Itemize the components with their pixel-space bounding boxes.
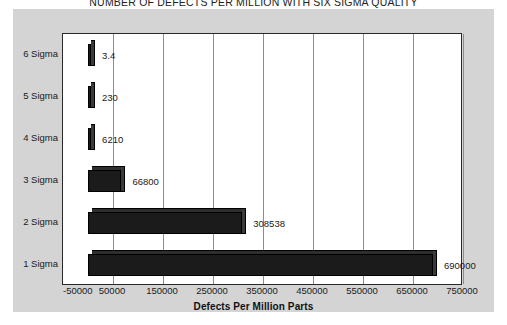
y-axis-label: 5 Sigma [11, 91, 58, 101]
x-axis-tick-label: 750000 [446, 286, 478, 296]
y-axis-label: 2 Sigma [11, 217, 58, 227]
plot-area: 3.4230621066800308538690000 [62, 33, 462, 285]
bar-value-label: 66800 [132, 177, 158, 187]
bar [88, 44, 91, 66]
bar-front-face [88, 212, 242, 234]
y-axis-label: 3 Sigma [11, 175, 58, 185]
gridline [463, 34, 464, 284]
bar-front-face [88, 86, 91, 108]
bar-front-face [88, 170, 121, 192]
chart-panel: 6 Sigma5 Sigma4 Sigma3 Sigma2 Sigma1 Sig… [13, 9, 494, 312]
bar-side-face [433, 250, 437, 276]
bar [88, 254, 433, 276]
y-axis-label: 1 Sigma [11, 259, 58, 269]
x-axis-tick-label: 350000 [246, 286, 278, 296]
x-axis-tick-label: 550000 [346, 286, 378, 296]
x-axis-title: Defects Per Million Parts [13, 301, 494, 312]
x-axis-tick-label: 250000 [196, 286, 228, 296]
bar-value-label: 690000 [444, 261, 476, 271]
x-axis-tick-label: 150000 [146, 286, 178, 296]
bar [88, 128, 91, 150]
bar-series: 3.4230621066800308538690000 [63, 34, 461, 284]
bar [88, 86, 91, 108]
bar-value-label: 3.4 [102, 51, 115, 61]
chart-title: NUMBER OF DEFECTS PER MILLION WITH SIX S… [13, 0, 494, 8]
bar-value-label: 230 [102, 93, 118, 103]
bar-value-label: 308538 [253, 219, 285, 229]
chart-screenshot: NUMBER OF DEFECTS PER MILLION WITH SIX S… [0, 0, 507, 325]
x-axis-tick-label: 650000 [396, 286, 428, 296]
bar-side-face [91, 124, 95, 150]
x-axis-tick-label: -50000 [63, 286, 93, 296]
bar-value-label: 6210 [102, 135, 123, 145]
bar-side-face [91, 82, 95, 108]
bar-side-face [242, 208, 246, 234]
bar-front-face [88, 44, 91, 66]
bar [88, 170, 121, 192]
y-axis-label: 6 Sigma [11, 49, 58, 59]
bar-front-face [88, 254, 433, 276]
bar [88, 212, 242, 234]
x-axis-tick-labels: -500005000015000025000035000045000055000… [62, 286, 462, 300]
y-axis-label: 4 Sigma [11, 133, 58, 143]
x-axis-tick-label: 50000 [99, 286, 125, 296]
x-axis-tick-label: 450000 [296, 286, 328, 296]
bar-front-face [88, 128, 91, 150]
y-axis-category-labels: 6 Sigma5 Sigma4 Sigma3 Sigma2 Sigma1 Sig… [13, 33, 58, 285]
bar-side-face [121, 166, 125, 192]
bar-side-face [91, 40, 95, 66]
